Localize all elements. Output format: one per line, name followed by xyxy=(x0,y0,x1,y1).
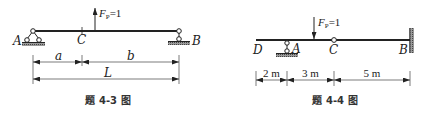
dimension-ac-label: 3 m xyxy=(302,67,319,79)
label-b-4-4: B xyxy=(398,43,408,57)
dimension-da-label: 2 m xyxy=(263,67,280,79)
dimension-l-label: L xyxy=(103,66,112,80)
label-d: D xyxy=(252,43,263,57)
label-c: C xyxy=(77,33,86,47)
diagram-canvas: A C FP=1 B a b L 题 4-3 图 xyxy=(0,0,429,115)
label-a-4-4: A xyxy=(291,42,301,56)
label-c-4-4: C xyxy=(329,43,338,57)
force-label: FP=1 xyxy=(98,7,121,21)
figure-4-4: D A FP=1 C B 2 m 3 m 5 xyxy=(252,16,414,106)
force-label-4-4: FP=1 xyxy=(317,16,340,30)
dimension-cb-label: 5 m xyxy=(364,67,381,79)
hinge-c-icon xyxy=(332,38,337,43)
label-b: B xyxy=(191,34,201,48)
figure-4-3: A C FP=1 B a b L 题 4-3 图 xyxy=(12,7,201,106)
dimension-a-label: a xyxy=(55,49,62,63)
fixed-support-b-icon xyxy=(410,28,414,53)
dimension-b-label: b xyxy=(127,49,135,63)
caption-4-4: 题 4-4 图 xyxy=(312,95,357,106)
caption-4-3: 题 4-3 图 xyxy=(85,95,130,106)
label-a: A xyxy=(12,34,22,48)
